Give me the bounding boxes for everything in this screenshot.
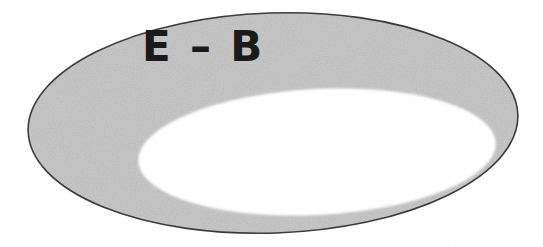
page-grain-overlay <box>0 0 543 247</box>
region-label: E – B <box>142 22 265 71</box>
figure-canvas: E – B <box>0 0 543 247</box>
annulus-diagram: E – B <box>0 0 543 247</box>
